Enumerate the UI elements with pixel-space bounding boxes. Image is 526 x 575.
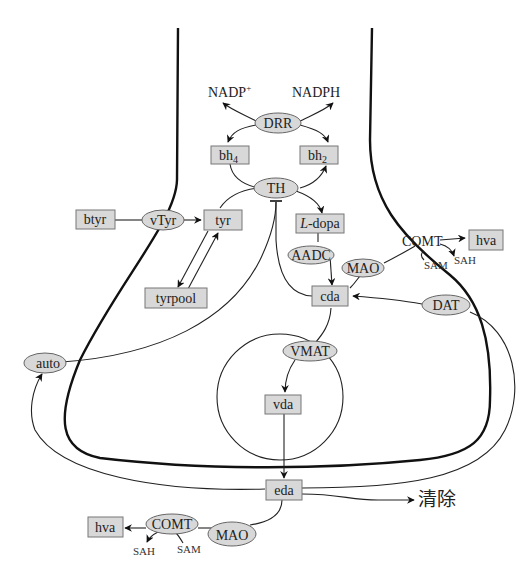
svg-text:vTyr: vTyr [150, 213, 177, 228]
edge-drr-nadp [223, 103, 258, 122]
edge-eda-clearance [302, 494, 414, 500]
svg-text:DRR: DRR [264, 116, 293, 131]
edge-comt-sah-outer [147, 532, 158, 542]
node-auto: auto [24, 353, 66, 373]
svg-text:auto: auto [36, 356, 60, 371]
label-sam-outer: SAM [177, 543, 201, 555]
svg-text:MAO: MAO [347, 261, 380, 276]
svg-text:eda: eda [274, 483, 294, 498]
svg-text:hva: hva [95, 520, 116, 535]
node-eda: eda [266, 480, 302, 500]
edge-eda-mao-outer [250, 500, 282, 525]
svg-text:hva: hva [476, 233, 497, 248]
node-vtyr: vTyr [142, 210, 184, 230]
node-tyr: tyr [204, 210, 242, 230]
edge-dat-cda [353, 296, 422, 304]
node-drr: DRR [255, 113, 301, 133]
node-bh4: bh4 [211, 146, 249, 165]
edge-comt-hva [440, 238, 465, 240]
edge-tyr-th [220, 188, 258, 208]
edge-cda-mao [350, 276, 360, 288]
svg-text:btyr: btyr [84, 212, 107, 227]
label-nadph: NADPH [292, 85, 340, 100]
label-sah-inner: SAH [454, 254, 476, 266]
edge-drr-bh4 [228, 125, 256, 142]
node-cda: cda [312, 286, 348, 306]
svg-text:MAO: MAO [216, 528, 249, 543]
node-comt-outer: COMT [146, 514, 198, 534]
node-th: TH [254, 178, 298, 198]
edge-bh4-th [230, 164, 258, 188]
edge-drr-nadph [298, 103, 333, 122]
node-l-dopa: L-dopa [296, 214, 344, 233]
svg-text:TH: TH [267, 181, 286, 196]
svg-text:tyrpool: tyrpool [156, 291, 197, 306]
dopamine-pathway-diagram: NADP+ NADPH DRR bh4 bh2 TH btyr vTyr tyr… [0, 0, 526, 575]
svg-text:COMT: COMT [152, 517, 193, 532]
node-bh2: bh2 [300, 146, 338, 165]
svg-text:cda: cda [320, 289, 340, 304]
node-comt-inner: COMT [402, 234, 443, 249]
svg-text:DAT: DAT [432, 298, 460, 313]
node-hva-outer: hva [88, 517, 123, 537]
label-clearance: 清除 [418, 488, 456, 510]
label-nadp-plus: NADP+ [208, 83, 251, 100]
edge-sam-comt-outer [176, 533, 183, 543]
node-mao-inner: MAO [342, 259, 384, 277]
label-sah-outer: SAH [133, 545, 155, 557]
edge-cda-vmat [315, 308, 331, 343]
node-vda: vda [265, 395, 301, 414]
edge-drr-bh2 [300, 125, 328, 142]
edge-th-ldopa [296, 191, 322, 213]
svg-text:tyr: tyr [215, 213, 231, 228]
edge-th-bh2 [300, 166, 326, 188]
svg-text:AADC: AADC [291, 248, 331, 263]
edge-vmat-vda [285, 360, 295, 392]
label-sam-inner: SAM [424, 259, 448, 271]
node-mao-outer: MAO [208, 522, 256, 546]
svg-text:vda: vda [273, 397, 294, 412]
node-hva-inner: hva [469, 230, 503, 250]
node-vmat: VMAT [283, 341, 337, 361]
node-aadc: AADC [288, 246, 334, 264]
node-btyr: btyr [76, 210, 115, 229]
svg-text:VMAT: VMAT [290, 344, 330, 359]
node-tyrpool: tyrpool [145, 288, 207, 308]
svg-text:L-dopa: L-dopa [299, 216, 340, 231]
node-dat: DAT [422, 295, 470, 315]
